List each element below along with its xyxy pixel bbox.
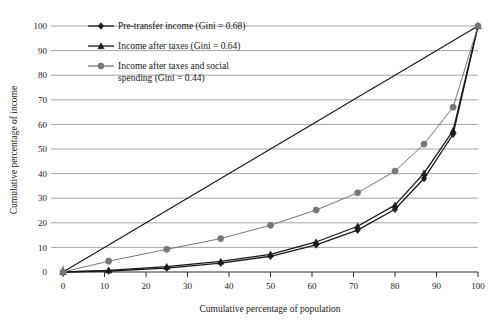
y-tick-label-100: 100	[34, 21, 48, 31]
chart-legend: Pre-transfer income (Gini = 0.68)Income …	[88, 21, 246, 83]
legend-marker-diamond	[98, 23, 103, 30]
x-tick-label-90: 90	[432, 281, 442, 291]
x-tick-label-40: 40	[225, 281, 235, 291]
y-tick-label-80: 80	[38, 70, 48, 80]
marker-triangle-series1-pt6	[354, 223, 360, 229]
legend-marker-circle	[98, 63, 104, 69]
marker-circle-series2-pt4	[267, 222, 273, 228]
x-tick-label-80: 80	[391, 281, 401, 291]
y-tick-label-70: 70	[38, 95, 48, 105]
y-tick-label-10: 10	[38, 243, 48, 253]
marker-circle-series2-pt7	[392, 168, 398, 174]
lorenz-curve-chart: 0102030405060708090100 01020304050607080…	[0, 0, 493, 326]
y-tick-label-50: 50	[38, 144, 48, 154]
y-tick-label-60: 60	[38, 120, 48, 130]
x-tick-label-60: 60	[308, 281, 318, 291]
x-tick-label-30: 30	[183, 281, 193, 291]
x-axis-tick-labels: 0102030405060708090100	[61, 281, 486, 291]
y-tick-label-20: 20	[38, 218, 48, 228]
marker-circle-series2-pt10	[475, 23, 481, 29]
marker-circle-series2-pt6	[355, 190, 361, 196]
x-axis-title: Cumulative percentage of population	[199, 304, 340, 314]
x-tick-label-50: 50	[266, 281, 276, 291]
marker-circle-series2-pt0	[60, 269, 66, 275]
y-tick-label-40: 40	[38, 169, 48, 179]
legend-label-0: Pre-transfer income (Gini = 0.68)	[118, 21, 246, 32]
y-axis-title: Cumulative percentage of income	[9, 86, 19, 214]
marker-circle-series2-pt5	[313, 207, 319, 213]
y-tick-label-90: 90	[38, 46, 48, 56]
y-tick-label-0: 0	[43, 267, 48, 277]
legend-label-1: Income after taxes (Gini = 0.64)	[118, 41, 240, 52]
chart-canvas: 0102030405060708090100 01020304050607080…	[0, 0, 493, 326]
marker-circle-series2-pt2	[164, 246, 170, 252]
y-axis-tick-labels: 0102030405060708090100	[34, 21, 48, 277]
marker-circle-series2-pt3	[218, 235, 224, 241]
marker-circle-series2-pt1	[106, 258, 112, 264]
x-tick-label-0: 0	[61, 281, 66, 291]
marker-triangle-series1-pt9	[450, 127, 456, 133]
x-tick-label-20: 20	[142, 281, 152, 291]
x-tick-label-70: 70	[349, 281, 359, 291]
x-tick-label-10: 10	[100, 281, 110, 291]
marker-circle-series2-pt9	[450, 104, 456, 110]
x-tick-label-100: 100	[471, 281, 485, 291]
y-tick-label-30: 30	[38, 193, 48, 203]
legend-label-2-line2: spending (Gini = 0.44)	[118, 73, 205, 84]
marker-circle-series2-pt8	[421, 141, 427, 147]
legend-label-2: Income after taxes and social	[118, 61, 229, 71]
